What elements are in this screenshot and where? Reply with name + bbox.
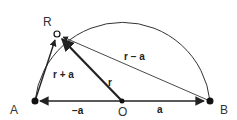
semicircle-vector-diagram xyxy=(0,0,237,120)
label-point-a: A xyxy=(10,104,18,116)
vector-r-minus-a xyxy=(63,37,210,101)
label-vector-r: r xyxy=(108,78,112,88)
label-vector-minus-a: −a xyxy=(72,106,83,116)
label-point-b: B xyxy=(220,104,228,116)
point-b-dot xyxy=(207,98,214,105)
point-a-dot xyxy=(32,98,39,105)
label-vector-r-plus-a: r + a xyxy=(53,70,74,80)
label-point-r: R xyxy=(43,16,52,28)
point-r-circle xyxy=(54,31,60,37)
label-point-o: O xyxy=(118,106,127,118)
point-o-dot xyxy=(120,99,125,104)
vector-r-plus-a xyxy=(35,40,55,101)
label-vector-a: a xyxy=(157,105,163,115)
label-vector-r-minus-a: r − a xyxy=(124,52,145,62)
